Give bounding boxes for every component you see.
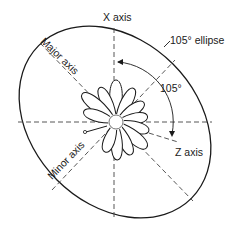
- x-axis-label: X axis: [103, 11, 132, 23]
- petal-rosette: [78, 80, 150, 160]
- stem-dot: [83, 130, 86, 133]
- angle-label: 105°: [160, 82, 182, 94]
- ellipse-label: 105° ellipse: [170, 34, 225, 46]
- z-axis-label: Z axis: [175, 146, 203, 158]
- ellipse-diagram: X axis 105° ellipse 105° Z axis Major ax…: [0, 0, 231, 232]
- stem-line: [86, 126, 107, 132]
- major-axis-label: Major axis: [39, 35, 82, 77]
- arc-arrowhead-end: [169, 131, 175, 137]
- arc-arrowhead-start: [117, 59, 123, 65]
